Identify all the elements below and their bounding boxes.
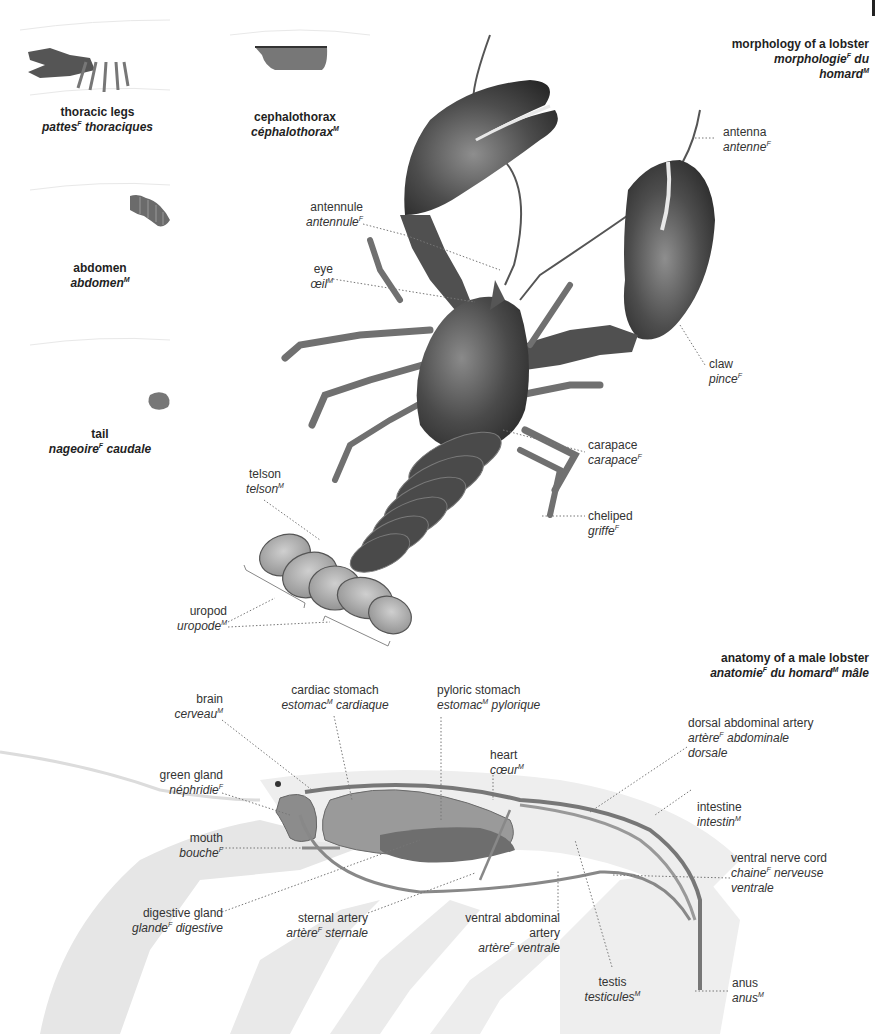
label-ventral-nerve-cord: ventral nerve cord chaineF nerveuse vent… [731,851,827,896]
label-brain: brain cerveauM [174,692,223,722]
label-ventral-abdominal-artery: ventral abdominal artery artèreF ventral… [465,911,560,956]
label-claw: claw pinceF [709,357,742,387]
thumbnail-abdomen [30,183,170,226]
thumbnail-tail [30,338,170,409]
thumbnail-label-tail: tail nageoireF caudale [40,427,160,457]
label-green-gland: green gland néphridieF [160,768,223,798]
label-uropod: uropod uropodeM [177,604,227,634]
label-heart: heart cœurM [490,748,524,778]
label-digestive-gland: digestive gland glandeF digestive [132,906,223,936]
label-telson: telson telsonM [240,467,290,497]
label-testis: testis testiculesM [575,975,650,1005]
label-antenna: antenna antenneF [723,125,771,155]
anatomy-section-title: anatomy of a male lobster anatomieF du h… [710,651,869,681]
label-dorsal-abdominal-artery: dorsal abdominal artery artèreF abdomina… [688,716,813,761]
label-eye: eye œilM [310,262,333,292]
label-mouth: mouth boucheF [179,831,223,861]
morphology-section-title: morphology of a lobster morphologieF du … [732,37,869,82]
thumbnail-label-abdomen: abdomen abdomenM [55,261,145,291]
thumbnail-cephalothorax [230,30,370,70]
label-anus: anus anusM [732,976,764,1006]
label-cheliped: cheliped griffeF [588,509,633,539]
label-carapace: carapace carapaceF [588,438,642,468]
label-pyloric-stomach: pyloric stomach estomacM pylorique [437,683,540,713]
label-sternal-artery: sternal artery artèreF sternale [286,911,368,941]
label-cardiac-stomach: cardiac stomach estomacM cardiaque [270,683,400,713]
thumbnail-thoracic-legs [20,20,170,95]
thumbnail-label-thoracic-legs: thoracic legs pattesF thoraciques [30,105,165,135]
label-intestine: intestine intestinM [697,800,742,830]
label-antennule: antennule antennuleF [306,200,363,230]
thumbnail-label-cephalothorax: cephalothorax céphalothoraxM [235,110,355,140]
